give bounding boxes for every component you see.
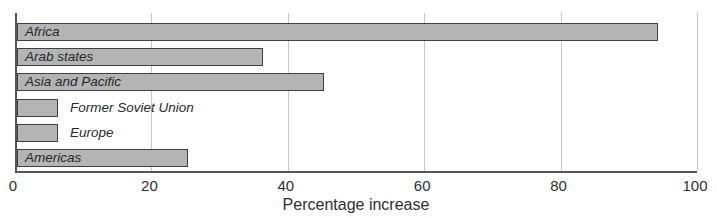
bar-label-arab-states: Arab states bbox=[25, 49, 93, 65]
x-tick-label-20: 20 bbox=[127, 177, 171, 194]
x-tick-label-60: 60 bbox=[400, 177, 444, 194]
x-axis-title: Percentage increase bbox=[15, 196, 697, 214]
bar-label-asia-and-pacific: Asia and Pacific bbox=[25, 74, 121, 90]
bar-arab-states: Arab states bbox=[17, 48, 263, 66]
bar-chart-figure: AfricaArab statesAsia and PacificFormer … bbox=[0, 0, 717, 218]
gridline-x-100 bbox=[697, 13, 698, 171]
bar-former-soviet-union bbox=[17, 99, 58, 117]
bar-europe bbox=[17, 124, 58, 142]
bar-label-africa: Africa bbox=[25, 24, 60, 40]
bar-label-americas: Americas bbox=[25, 150, 81, 166]
x-tick-label-40: 40 bbox=[264, 177, 308, 194]
x-tick-label-0: 0 bbox=[0, 177, 35, 194]
x-tick-label-100: 100 bbox=[673, 177, 717, 194]
bar-americas: Americas bbox=[17, 149, 188, 167]
bar-africa: Africa bbox=[17, 23, 658, 41]
bar-label-former-soviet-union: Former Soviet Union bbox=[70, 99, 194, 117]
x-tick-label-80: 80 bbox=[537, 177, 581, 194]
bar-label-europe: Europe bbox=[70, 124, 114, 142]
plot-area: AfricaArab statesAsia and PacificFormer … bbox=[15, 13, 697, 173]
bar-asia-and-pacific: Asia and Pacific bbox=[17, 73, 324, 91]
